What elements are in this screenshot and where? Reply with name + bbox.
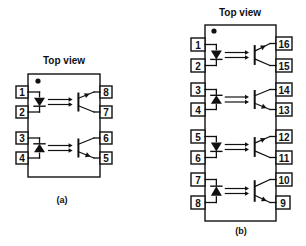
pin-6: 6 <box>100 132 112 144</box>
package-a: Top view(a)12348765 <box>16 55 112 205</box>
pin-3: 3 <box>16 132 28 144</box>
phototransistor-icon <box>255 180 276 203</box>
pin-number: 8 <box>195 198 201 209</box>
pin-11: 11 <box>276 151 292 164</box>
figure-caption: (b) <box>235 226 247 236</box>
pin-number: 3 <box>19 133 25 144</box>
pin-number: 1 <box>195 40 201 51</box>
phototransistor-icon <box>78 92 100 112</box>
phototransistor-icon <box>255 137 276 158</box>
light-arrows-icon <box>49 143 73 152</box>
pin-10: 10 <box>276 173 292 186</box>
phototransistor-icon <box>255 90 276 110</box>
pin1-marker-dot <box>35 78 40 83</box>
light-arrows-icon <box>225 142 249 151</box>
figure-caption: (a) <box>57 195 68 205</box>
optocoupler-channel <box>205 44 276 66</box>
pin-number: 13 <box>278 105 290 116</box>
led-diode-icon <box>211 143 222 152</box>
pin-number: 1 <box>19 87 25 98</box>
pin-number: 9 <box>280 198 286 209</box>
pin-number: 15 <box>278 61 290 72</box>
package-title: Top view <box>219 7 261 18</box>
pin-number: 2 <box>195 61 201 72</box>
pin-16: 16 <box>276 37 292 50</box>
pin-number: 16 <box>278 39 290 50</box>
pin-number: 6 <box>103 133 109 144</box>
pin-number: 7 <box>195 175 201 186</box>
pin-2: 2 <box>191 59 205 72</box>
pin-1: 1 <box>191 38 205 51</box>
pin-9: 9 <box>276 196 290 209</box>
pin-number: 8 <box>103 87 109 98</box>
pin-1: 1 <box>16 86 28 98</box>
pin-number: 4 <box>19 153 25 164</box>
pin-number: 12 <box>278 132 290 143</box>
pin-number: 7 <box>103 107 109 118</box>
light-arrows-icon <box>225 186 249 195</box>
pin1-marker-dot <box>211 28 216 33</box>
led-diode-icon <box>34 98 45 106</box>
package-b: Top view(b)12345678161514131211109 <box>191 7 292 236</box>
pin-8: 8 <box>100 86 112 98</box>
package-body <box>28 74 100 177</box>
pin-2: 2 <box>16 106 28 118</box>
led-diode-icon <box>211 51 222 60</box>
optocoupler-pinout-diagram: Top view(a)12348765Top view(b)1234567816… <box>0 0 306 246</box>
light-arrows-icon <box>49 97 73 106</box>
phototransistor-icon <box>255 44 276 66</box>
pin-5: 5 <box>191 130 205 143</box>
optocoupler-channel <box>28 138 100 158</box>
pin-number: 3 <box>195 85 201 96</box>
pin-4: 4 <box>16 152 28 164</box>
led-diode-icon <box>211 95 222 103</box>
pin-number: 2 <box>19 107 25 118</box>
phototransistor-icon <box>78 138 100 158</box>
pin-number: 6 <box>195 153 201 164</box>
led-diode-icon <box>211 186 222 196</box>
pin-number: 11 <box>279 153 290 164</box>
pin-6: 6 <box>191 151 205 164</box>
pin-number: 10 <box>278 175 290 186</box>
pin-7: 7 <box>100 106 112 118</box>
pin-5: 5 <box>100 152 112 164</box>
pin-4: 4 <box>191 103 205 116</box>
pin-14: 14 <box>276 83 292 96</box>
pin-13: 13 <box>276 103 292 116</box>
pin-8: 8 <box>191 196 205 209</box>
pin-15: 15 <box>276 59 292 72</box>
pin-number: 14 <box>278 85 290 96</box>
pin-number: 5 <box>103 153 109 164</box>
led-diode-icon <box>34 144 45 152</box>
package-title: Top view <box>43 55 85 66</box>
optocoupler-channel <box>205 90 276 110</box>
pin-12: 12 <box>276 130 292 143</box>
optocoupler-channel <box>205 180 276 203</box>
light-arrows-icon <box>225 95 249 104</box>
pin-number: 5 <box>195 132 201 143</box>
light-arrows-icon <box>225 50 249 59</box>
pin-7: 7 <box>191 173 205 186</box>
optocoupler-channel <box>28 92 100 112</box>
pin-3: 3 <box>191 83 205 96</box>
optocoupler-channel <box>205 137 276 158</box>
pin-number: 4 <box>195 105 201 116</box>
